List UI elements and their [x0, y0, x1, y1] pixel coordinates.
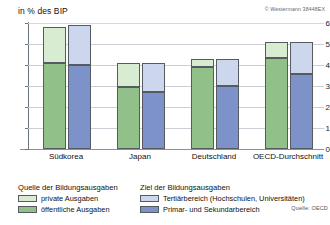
bar-segment: [68, 25, 91, 65]
x-category-label: Deutschland: [192, 152, 236, 161]
bar-segment: [43, 63, 66, 149]
bar-green: [117, 63, 140, 149]
legend-swatch-oeffentliche-ausgaben: [18, 206, 37, 213]
bar-group: [117, 23, 165, 149]
legend-item-private-ausgaben: private Ausgaben: [18, 194, 148, 204]
bar-segment: [265, 42, 288, 58]
bar-segment: [216, 86, 239, 149]
bar-segment: [117, 87, 140, 149]
legend-group-source: Quelle der Bildungsausgaben private Ausg…: [18, 183, 148, 215]
chart-figure: in % des BIP © Westermann 38448EX 012345…: [0, 0, 330, 225]
plot-area: [28, 23, 324, 149]
source-note: Quelle: OECD: [291, 205, 328, 211]
x-category-label: Japan: [129, 152, 151, 161]
x-category-label: OECD-Durchschnitt: [253, 152, 323, 161]
bar-blue: [68, 25, 91, 149]
legend-swatch-private-ausgaben: [18, 195, 37, 202]
legend-swatch-primar-sekundarbereich: [140, 206, 159, 213]
bar-green: [191, 59, 214, 149]
bar-group: [265, 23, 313, 149]
bar-segment: [68, 65, 91, 149]
bar-segment: [43, 27, 66, 63]
bar-segment: [191, 67, 214, 149]
bar-segment: [265, 58, 288, 149]
bar-segment: [290, 74, 313, 149]
chart-legend: Quelle der Bildungsausgaben private Ausg…: [18, 183, 328, 217]
bar-blue: [142, 63, 165, 149]
legend-item-oeffentliche-ausgaben: öffentliche Ausgaben: [18, 205, 148, 215]
bar-segment: [142, 92, 165, 149]
legend-label-private-ausgaben: private Ausgaben: [41, 194, 98, 203]
bar-green: [43, 27, 66, 149]
x-category-label: Südkorea: [49, 152, 83, 161]
bar-blue: [290, 42, 313, 149]
legend-label-tertiaerbereich: Tertiärbereich (Hochschulen, Universität…: [163, 194, 305, 203]
bar-green: [265, 42, 288, 149]
bar-group: [191, 23, 239, 149]
legend-item-tertiaerbereich: Tertiärbereich (Hochschulen, Universität…: [140, 194, 330, 204]
copyright-notice: © Westermann 38448EX: [265, 6, 325, 12]
bar-segment: [191, 59, 214, 67]
legend-label-primar-sekundarbereich: Primar- und Sekundarbereich: [163, 205, 260, 214]
bar-segment: [216, 59, 239, 86]
bar-group: [43, 23, 91, 149]
legend-target-heading: Ziel der Bildungsausgaben: [140, 183, 330, 192]
bar-segment: [290, 42, 313, 75]
legend-swatch-tertiaerbereich: [140, 195, 159, 202]
x-axis-line: [20, 149, 324, 150]
legend-label-oeffentliche-ausgaben: öffentliche Ausgaben: [41, 205, 110, 214]
bar-blue: [216, 59, 239, 149]
legend-source-heading: Quelle der Bildungsausgaben: [18, 183, 148, 192]
y-axis-title: in % des BIP: [18, 6, 68, 16]
bar-segment: [142, 63, 165, 92]
figure-caption: Bildungsausgaben im internationalen Verg…: [18, 223, 318, 225]
bar-segment: [117, 63, 140, 87]
